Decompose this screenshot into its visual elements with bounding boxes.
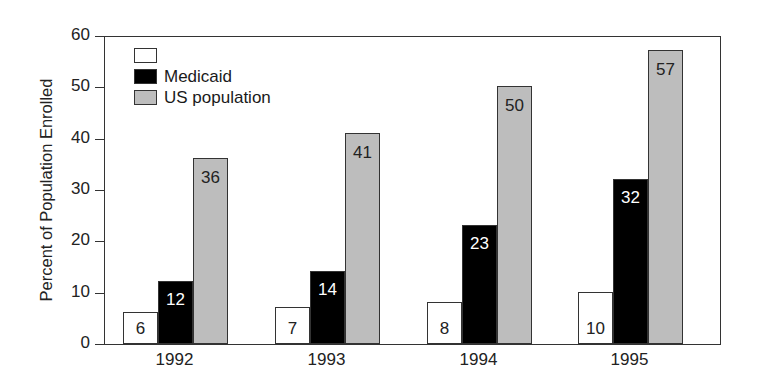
legend-swatch-gray: [134, 90, 157, 105]
bar-us-population-1994: 50: [497, 86, 532, 344]
bar-us-population-1992: 36: [193, 158, 228, 344]
bar-us-population-1995: 57: [648, 50, 683, 344]
y-tick: [95, 344, 104, 345]
bar-medicaid-1993: 14: [310, 271, 345, 344]
bar-medicaid-1992: 12: [158, 281, 193, 344]
x-tick-label: 1993: [287, 350, 367, 370]
bar-value-label: 12: [159, 290, 192, 310]
y-tick: [95, 190, 104, 191]
x-tick-label: 1994: [439, 350, 519, 370]
y-tick-label: 20: [60, 230, 90, 250]
y-tick: [95, 87, 104, 88]
bar-value-label: 36: [194, 168, 227, 188]
x-tick-label: 1992: [135, 350, 215, 370]
y-tick-label: 60: [60, 25, 90, 45]
legend-label: Medicaid: [164, 67, 232, 87]
bar-us-population-1993: 41: [345, 133, 380, 344]
y-tick: [95, 139, 104, 140]
bar-value-label: 23: [463, 234, 496, 254]
legend-label: US population: [164, 88, 271, 108]
bar-value-label: 6: [124, 319, 157, 339]
bar-value-label: 7: [276, 319, 309, 339]
y-tick: [95, 241, 104, 242]
y-tick-label: 50: [60, 76, 90, 96]
legend: Medicaid US population: [134, 45, 271, 108]
bar-unlabeled-1993: 7: [275, 307, 310, 344]
bar-value-label: 50: [498, 96, 531, 116]
bar-unlabeled-1992: 6: [123, 312, 158, 344]
legend-item-unlabeled: [134, 45, 271, 66]
y-tick: [95, 293, 104, 294]
bar-unlabeled-1995: 10: [578, 292, 613, 344]
legend-item-us-population: US population: [134, 87, 271, 108]
bar-value-label: 32: [614, 188, 647, 208]
bar-medicaid-1995: 32: [613, 179, 648, 344]
plot-area: Medicaid US population 61236714418235010…: [104, 36, 721, 345]
bar-medicaid-1994: 23: [462, 225, 497, 344]
bar-value-label: 10: [579, 319, 612, 339]
x-tick-label: 1995: [590, 350, 670, 370]
y-tick: [95, 36, 104, 37]
legend-swatch-black: [134, 69, 157, 84]
y-tick-label: 30: [60, 179, 90, 199]
bar-value-label: 8: [428, 319, 461, 339]
legend-item-medicaid: Medicaid: [134, 66, 271, 87]
bar-value-label: 57: [649, 60, 682, 80]
y-axis-title: Percent of Population Enrolled: [37, 79, 56, 302]
y-tick-label: 0: [60, 333, 90, 353]
bar-value-label: 41: [346, 143, 379, 163]
bar-unlabeled-1994: 8: [427, 302, 462, 344]
legend-swatch-white: [134, 48, 157, 63]
y-tick-label: 10: [60, 282, 90, 302]
y-tick-label: 40: [60, 128, 90, 148]
bar-value-label: 14: [311, 280, 344, 300]
